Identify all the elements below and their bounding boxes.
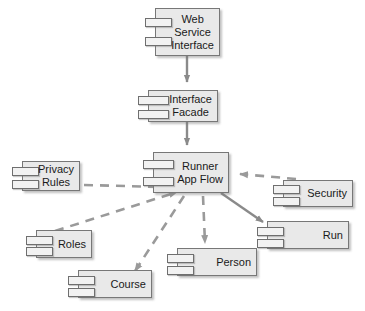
component-label: Web Service Interface: [171, 9, 214, 55]
component-diagram-canvas: Web Service Interface Interface Facade R…: [0, 0, 365, 311]
component-stub: [12, 167, 39, 176]
component-stub: [26, 236, 53, 245]
component-interface-facade[interactable]: Interface Facade: [148, 90, 218, 122]
component-run[interactable]: Run: [267, 221, 349, 249]
component-stub: [257, 239, 284, 248]
edge-runner-to-person: [203, 196, 205, 243]
component-stub: [167, 266, 194, 275]
component-stub: [273, 185, 300, 194]
component-label: Person: [216, 249, 251, 275]
label-line: Run: [323, 229, 343, 242]
label-line: Facade: [172, 106, 209, 119]
component-stub: [143, 177, 174, 186]
component-stub: [143, 160, 174, 169]
component-label: Privacy Rules: [38, 162, 74, 190]
label-line: Service: [174, 26, 211, 39]
component-label: Roles: [58, 231, 86, 257]
edge-roles-to-runner: [55, 192, 177, 231]
edge-security-to-runner: [240, 174, 296, 179]
component-label: Run: [323, 222, 343, 248]
label-line: Person: [216, 256, 251, 269]
label-line: Rules: [42, 176, 70, 189]
label-line: Interface: [169, 93, 212, 106]
component-stub: [257, 227, 284, 236]
label-line: Runner: [182, 160, 218, 173]
label-line: Privacy: [38, 163, 74, 176]
label-line: Interface: [171, 39, 214, 52]
label-line: Roles: [58, 238, 86, 251]
component-person[interactable]: Person: [177, 248, 257, 276]
component-stub: [273, 197, 300, 206]
component-course[interactable]: Course: [78, 270, 152, 298]
edge-runner-to-run: [221, 193, 263, 222]
component-web-service-interface[interactable]: Web Service Interface: [155, 8, 220, 56]
component-stub: [138, 110, 169, 119]
component-stub: [145, 37, 172, 46]
component-label: Security: [307, 181, 347, 206]
label-line: Course: [111, 278, 146, 291]
component-roles[interactable]: Roles: [36, 230, 92, 258]
label-line: Security: [307, 187, 347, 200]
component-stub: [12, 180, 39, 189]
component-privacy-rules[interactable]: Privacy Rules: [22, 161, 80, 191]
component-label: Interface Facade: [169, 91, 212, 121]
component-stub: [68, 288, 95, 297]
label-line: App Flow: [177, 173, 223, 186]
component-label: Runner App Flow: [177, 153, 223, 192]
component-label: Course: [111, 271, 146, 297]
component-security[interactable]: Security: [283, 180, 353, 207]
component-runner-app-flow[interactable]: Runner App Flow: [153, 152, 229, 193]
label-line: Web: [181, 13, 203, 26]
component-stub: [167, 254, 194, 263]
component-stub: [68, 276, 95, 285]
component-stub: [26, 247, 53, 256]
component-stub: [138, 96, 169, 105]
component-stub: [145, 18, 172, 27]
